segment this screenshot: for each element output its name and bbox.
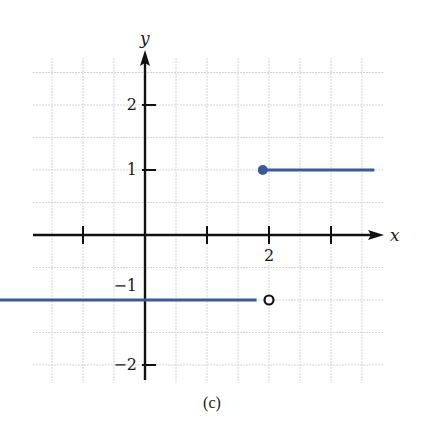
- y-tick-label: 2: [127, 95, 137, 114]
- x-axis-label: x: [390, 225, 400, 245]
- y-tick-label: 1: [127, 160, 137, 179]
- y-axis-label: y: [139, 28, 150, 48]
- grid-lines: [33, 58, 383, 383]
- plot-area: xy221−1−2: [0, 0, 424, 436]
- open-endpoint-circle: [265, 296, 274, 305]
- x-tick-label: 2: [264, 246, 274, 265]
- y-tick-label: −1: [113, 276, 137, 295]
- y-tick-label: −2: [113, 355, 137, 374]
- closed-endpoint-dot: [258, 165, 268, 175]
- axis-labels: xy221−1−2: [113, 28, 400, 374]
- figure-caption: (c): [0, 394, 424, 412]
- step-function-graph: xy221−1−2 (c): [0, 0, 424, 436]
